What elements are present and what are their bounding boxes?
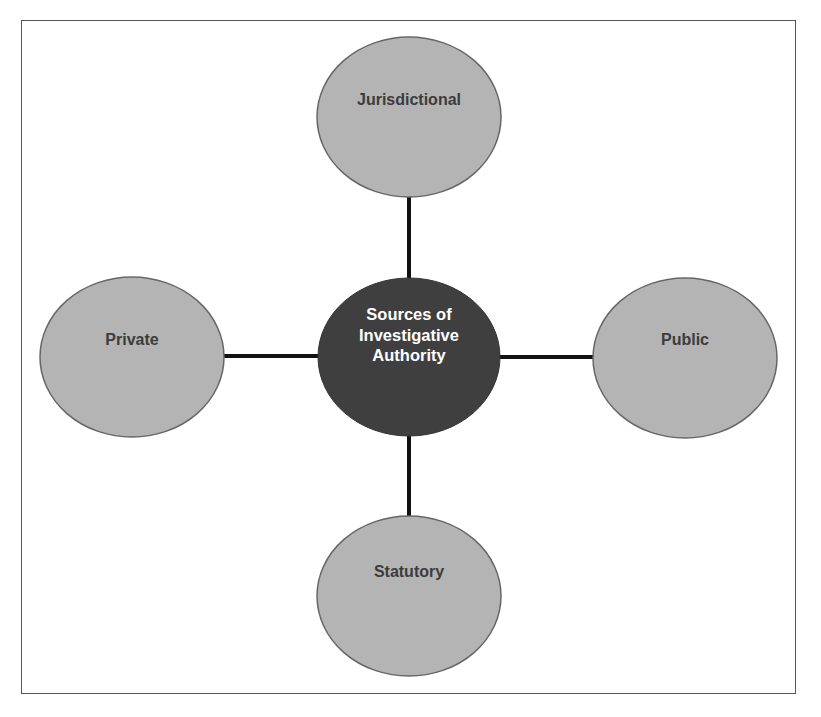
center-label-line-1: Sources of (366, 304, 451, 325)
node-public-label: Public (661, 330, 709, 350)
node-jurisdictional: Jurisdictional (317, 80, 501, 120)
node-statutory-shape (317, 516, 501, 676)
node-public: Public (593, 320, 777, 360)
node-jurisdictional-label: Jurisdictional (357, 90, 461, 110)
node-private: Private (40, 320, 224, 360)
node-statutory: Statutory (317, 552, 501, 592)
node-statutory-label: Statutory (374, 562, 444, 582)
center-label-line-2: Investigative (359, 325, 459, 346)
node-private-label: Private (105, 330, 158, 350)
node-center: Sources of Investigative Authority (318, 295, 500, 375)
center-label-line-3: Authority (372, 345, 445, 366)
